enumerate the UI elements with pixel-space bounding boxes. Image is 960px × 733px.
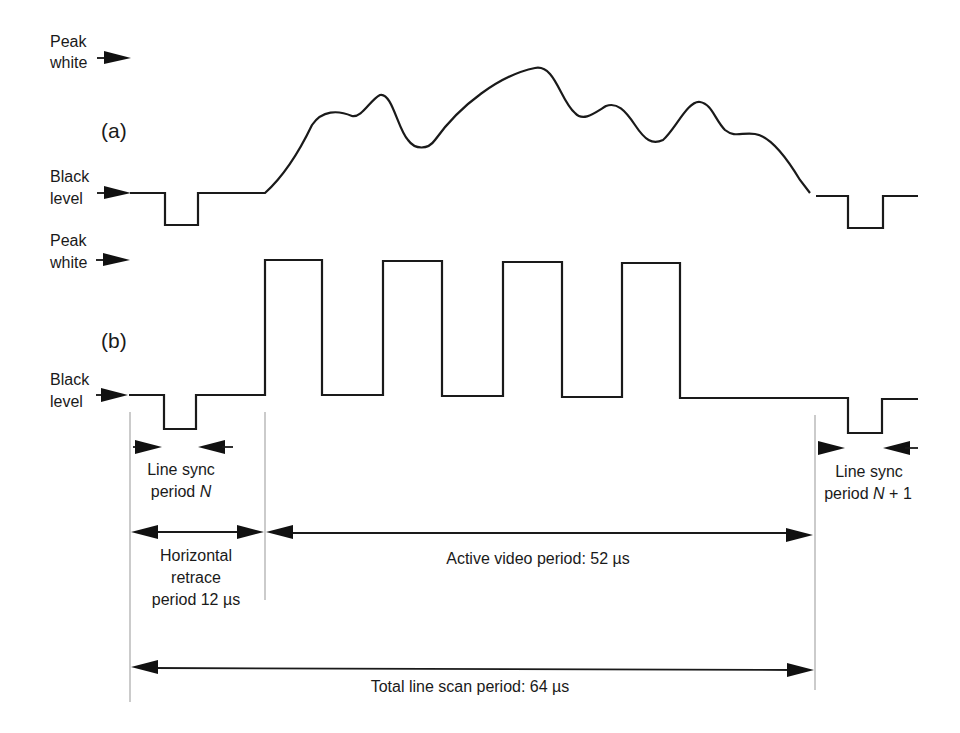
line-sync-n1-label: Line sync period N + 1: [824, 463, 912, 502]
video-line-timing-diagram: Peak white (a) Black level Peak white (b…: [0, 0, 960, 733]
arrow-right-icon: [97, 186, 131, 199]
svg-text:white: white: [49, 254, 87, 271]
svg-text:white: white: [49, 54, 87, 71]
arrow-left-icon: [198, 440, 225, 454]
svg-text:period N + 1: period N + 1: [824, 485, 912, 502]
waveform-b: [129, 260, 918, 433]
black-level-label-a: Black level: [50, 168, 131, 207]
total-line-scan-label: Total line scan period: 64 µs: [371, 678, 570, 695]
svg-text:Peak: Peak: [50, 232, 87, 249]
svg-text:period 12 µs: period 12 µs: [152, 591, 240, 608]
horizontal-retrace-dimension: [131, 525, 264, 539]
svg-text:Line sync: Line sync: [835, 463, 903, 480]
svg-text:Black: Black: [50, 168, 90, 185]
svg-text:retrace: retrace: [171, 569, 221, 586]
peak-white-label-a: Peak white: [49, 33, 131, 71]
arrow-left-icon: [131, 525, 158, 539]
panel-label-b: (b): [101, 329, 127, 352]
arrow-left-icon: [131, 660, 158, 674]
svg-text:Horizontal: Horizontal: [160, 547, 232, 564]
arrow-right-icon: [135, 440, 162, 454]
active-video-dimension: [266, 525, 813, 542]
arrow-right-icon: [237, 525, 264, 539]
waveform-a: [130, 68, 810, 225]
line-sync-n-label: Line sync period N: [147, 461, 215, 500]
svg-text:Black: Black: [50, 371, 90, 388]
arrow-right-icon: [818, 441, 845, 455]
svg-text:level: level: [50, 190, 83, 207]
svg-text:period N: period N: [151, 483, 212, 500]
arrow-right-icon: [96, 388, 128, 402]
svg-text:Line sync: Line sync: [147, 461, 215, 478]
black-level-label-b: Black level: [50, 371, 128, 410]
arrow-right-icon: [97, 51, 131, 64]
arrow-right-icon: [96, 253, 130, 266]
line-sync-n-dimension: [133, 440, 233, 454]
horizontal-retrace-label: Horizontal retrace period 12 µs: [152, 547, 240, 608]
arrow-left-icon: [266, 525, 293, 539]
line-sync-n1-dimension: [818, 441, 918, 455]
panel-label-a: (a): [101, 119, 127, 142]
active-video-label: Active video period: 52 µs: [446, 550, 630, 567]
arrow-right-icon: [786, 528, 813, 542]
peak-white-label-b: Peak white: [49, 232, 130, 271]
arrow-right-icon: [787, 663, 814, 677]
waveform-a-next-sync: [816, 196, 918, 228]
total-line-scan-dimension: [131, 660, 814, 677]
svg-text:level: level: [50, 393, 83, 410]
svg-text:Peak: Peak: [50, 33, 87, 50]
